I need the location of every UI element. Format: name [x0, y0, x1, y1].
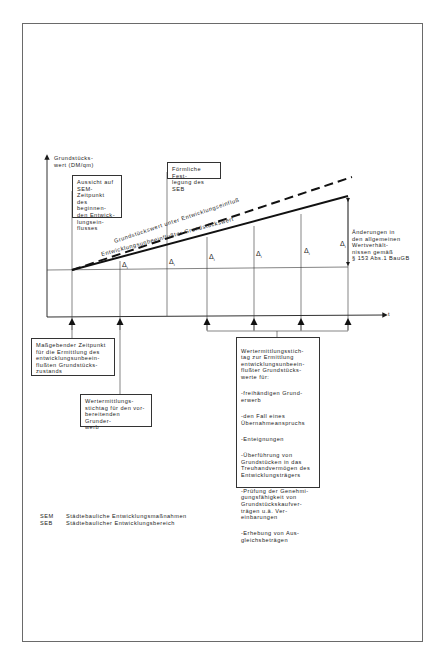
- delta-2: Δi: [169, 258, 175, 268]
- valuation-intro: Wertermittlungsstich- tag zur Ermittlung…: [241, 348, 315, 381]
- diagram-lines: [0, 0, 445, 670]
- legend-row-sem: SEM Städtebauliche Entwicklungsmaßnahmen: [40, 513, 187, 520]
- valuation-item: -Erhebung von Aus- gleichsbeträgen: [241, 530, 315, 543]
- delta-5: Δi: [304, 247, 310, 257]
- y-axis-label: Grundstücks- wert (DM/qm): [54, 155, 94, 168]
- x-axis-label: t: [388, 311, 390, 318]
- note-general-value-changes: Änderungen in den allgemeinen Wertverhäl…: [352, 229, 410, 262]
- valuation-item: -Prüfung der Genehmi- gungsfähigkeit von…: [241, 488, 315, 521]
- box-sem-start: Aussicht auf SEM-Zeitpunkt des beginnen-…: [72, 175, 122, 218]
- box-preparatory-acquisition: Wertermittlungs- stichtag für den vor- b…: [80, 394, 152, 427]
- valuation-item: -freihändigen Grund- erwerb: [241, 390, 315, 403]
- box-valuation-date: Wertermittlungsstich- tag zur Ermittlung…: [236, 337, 320, 488]
- legend-row-seb: SEB Städtebaulicher Entwicklungsbereich: [40, 520, 187, 527]
- box-seb-designation: Förmliche Fest- legung des SEB: [167, 162, 221, 179]
- t-axis: [47, 315, 385, 317]
- box-decisive-time: Maßgebender Zeitpunkt für die Ermittlung…: [31, 338, 115, 376]
- delta-4: Δi: [256, 250, 262, 260]
- delta-3: Δi: [209, 253, 215, 263]
- valuation-item: -Enteignungen: [241, 436, 315, 443]
- delta-6: Δi: [340, 240, 346, 250]
- valuation-item: -den Fall eines Übernahmeanspruchs: [241, 413, 315, 426]
- legend: SEM Städtebauliche Entwicklungsmaßnahmen…: [40, 513, 187, 527]
- delta-1: Δi: [122, 261, 128, 271]
- valuation-item: -Überführung von Grundstücken in das Tre…: [241, 452, 315, 478]
